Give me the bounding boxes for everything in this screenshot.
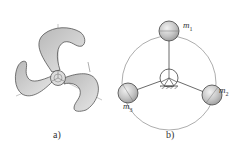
blade-right xyxy=(64,74,98,112)
blade-top xyxy=(39,28,85,72)
label-m2: m2 xyxy=(219,85,229,97)
mass-system-diagram xyxy=(118,21,222,130)
label-m3: m3 xyxy=(123,101,133,113)
mass-m1 xyxy=(159,21,179,41)
blade-left xyxy=(15,61,52,96)
label-m1: m1 xyxy=(183,20,193,32)
propeller-diagram xyxy=(15,24,102,111)
caption-a: a) xyxy=(53,129,61,140)
rotation-arrow xyxy=(88,62,90,72)
caption-b: b) xyxy=(166,129,174,140)
mass-m3 xyxy=(118,83,138,103)
ground-hatching xyxy=(160,86,178,89)
figure-canvas xyxy=(0,0,238,152)
